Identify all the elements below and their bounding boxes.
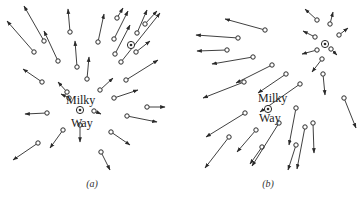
galaxy-velocity-vector: [196, 35, 240, 40]
galaxy-velocity-vector: [250, 145, 264, 164]
galaxy-velocity-vector: [236, 63, 274, 83]
galaxy-velocity-vector: [329, 47, 337, 55]
galaxy-circle-icon: [328, 22, 332, 26]
galaxy-velocity-vector: [98, 78, 113, 92]
galaxy-velocity-vector: [50, 128, 65, 148]
reference-galaxy-symbol-icon: [127, 41, 134, 48]
galaxy-velocity-vector: [13, 141, 40, 160]
galaxy-circle-icon: [125, 114, 129, 118]
galaxy-circle-icon: [40, 80, 44, 84]
galaxy-circle-icon: [68, 30, 72, 34]
galaxy-circle-icon: [119, 60, 123, 64]
galaxy-velocity-vector: [197, 48, 229, 52]
galaxy-circle-icon: [113, 52, 117, 56]
galaxy-circle-icon: [243, 111, 247, 115]
galaxy-circle-icon: [315, 48, 319, 52]
panel-caption: (b): [262, 178, 274, 190]
galaxy-circle-icon: [321, 72, 325, 76]
galaxy-velocity-vector: [119, 13, 160, 64]
galaxy-velocity-vector: [7, 21, 36, 54]
galaxy-circle-icon: [315, 18, 319, 22]
galaxy-velocity-vector: [25, 111, 49, 115]
galaxy-velocity-vector: [24, 6, 46, 43]
galaxy-circle-icon: [112, 37, 116, 41]
panel-a: MilkyWay(a): [7, 6, 165, 190]
galaxy-circle-icon: [109, 130, 113, 134]
reference-galaxy-symbol-icon: [321, 40, 328, 47]
galaxy-velocity-vector: [99, 150, 110, 170]
way-label: Way: [259, 111, 281, 125]
galaxy-circle-icon: [337, 33, 341, 37]
galaxy-recession-diagram: MilkyWay(a) MilkyWay(b): [0, 0, 361, 203]
galaxy-velocity-vector: [305, 9, 319, 22]
galaxy-velocity-vector: [143, 11, 157, 26]
galaxy-velocity-vector: [125, 114, 157, 122]
galaxy-velocity-vector: [145, 105, 165, 109]
galaxy-circle-icon: [254, 128, 258, 132]
galaxy-circle-icon: [298, 82, 302, 86]
galaxy-circle-icon: [112, 96, 116, 100]
galaxy-velocity-vector: [23, 69, 44, 84]
milky-label: Milky: [258, 91, 287, 105]
galaxy-velocity-vector: [311, 121, 315, 153]
galaxy-circle-icon: [263, 28, 267, 32]
galaxy-circle-icon: [143, 22, 147, 26]
galaxy-circle-icon: [75, 65, 79, 69]
galaxy-circle-icon: [145, 105, 149, 109]
galaxy-velocity-vector: [206, 111, 247, 137]
galaxy-velocity-vector: [115, 8, 123, 20]
galaxy-velocity-vector: [342, 96, 356, 128]
galaxy-velocity-vector: [225, 19, 267, 32]
galaxy-circle-icon: [284, 72, 288, 76]
galaxy-velocity-vector: [205, 135, 231, 168]
galaxy-velocity-vector: [312, 57, 324, 72]
galaxy-circle-icon: [303, 125, 307, 129]
galaxy-circle-icon: [61, 128, 65, 132]
galaxy-circle-icon: [115, 16, 119, 20]
galaxy-circle-icon: [342, 96, 346, 100]
galaxy-circle-icon: [294, 106, 298, 110]
galaxy-circle-icon: [134, 50, 138, 54]
galaxy-circle-icon: [320, 57, 324, 61]
galaxy-velocity-vector: [237, 128, 258, 152]
galaxy-circle-icon: [32, 50, 36, 54]
galaxy-velocity-vector: [297, 125, 307, 169]
galaxy-circle-icon: [36, 141, 40, 145]
galaxy-velocity-vector: [112, 90, 138, 100]
galaxy-velocity-vector: [112, 11, 128, 41]
galaxy-circle-icon: [85, 77, 89, 81]
galaxy-circle-icon: [124, 78, 128, 82]
galaxy-velocity-vector: [302, 48, 319, 54]
galaxy-velocity-vector: [92, 109, 101, 114]
galaxy-circle-icon: [135, 31, 139, 35]
galaxy-velocity-vector: [321, 72, 325, 95]
galaxy-circle-icon: [311, 121, 315, 125]
galaxy-velocity-vector: [75, 41, 79, 69]
galaxy-circle-icon: [56, 59, 60, 63]
galaxy-velocity-vector: [258, 72, 288, 93]
galaxy-circle-icon: [227, 135, 231, 139]
galaxy-circle-icon: [42, 39, 46, 43]
milky-way-symbol-icon: [76, 106, 83, 113]
galaxy-velocity-vector: [109, 130, 130, 145]
galaxy-velocity-vector: [85, 57, 89, 81]
galaxy-circle-icon: [270, 63, 274, 67]
galaxy-velocity-vector: [288, 143, 298, 170]
galaxy-circle-icon: [329, 47, 333, 51]
galaxy-velocity-vector: [212, 55, 255, 64]
galaxy-circle-icon: [45, 111, 49, 115]
galaxy-circle-icon: [96, 40, 100, 44]
galaxy-circle-icon: [294, 143, 298, 147]
galaxy-velocity-vector: [44, 31, 60, 63]
galaxy-circle-icon: [225, 48, 229, 52]
milky-label: Milky: [66, 93, 95, 107]
galaxy-velocity-vector: [124, 60, 158, 82]
galaxy-circle-icon: [99, 150, 103, 154]
galaxy-circle-icon: [242, 80, 246, 84]
panel-caption: (a): [86, 178, 98, 190]
galaxy-velocity-vector: [337, 28, 348, 37]
galaxy-circle-icon: [98, 88, 102, 92]
galaxy-circle-icon: [251, 55, 255, 59]
galaxy-velocity-vector: [289, 106, 298, 145]
galaxy-velocity-vector: [328, 12, 333, 26]
